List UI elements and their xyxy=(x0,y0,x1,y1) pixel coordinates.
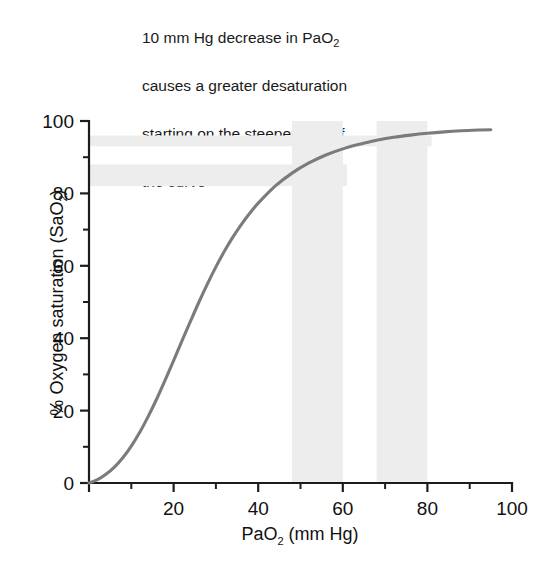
oxyhemoglobin-dissociation-figure: 10 mm Hg decrease in PaO2 causes a great… xyxy=(0,0,534,567)
y-tick-label: 40 xyxy=(53,328,74,349)
x-tick-label: 80 xyxy=(417,498,438,519)
x-highlight-band xyxy=(377,121,428,483)
x-tick-label: 20 xyxy=(163,498,184,519)
y-tick-label: 100 xyxy=(42,111,74,132)
x-tick-label: 60 xyxy=(332,498,353,519)
y-tick-label: 60 xyxy=(53,256,74,277)
y-tick-label: 80 xyxy=(53,183,74,204)
y-tick-label: 20 xyxy=(53,401,74,422)
x-tick-label: 100 xyxy=(496,498,528,519)
plot-area: 02040608010020406080100 xyxy=(0,0,534,567)
y-tick-label: 0 xyxy=(63,473,74,494)
x-tick-label: 40 xyxy=(248,498,269,519)
y-highlight-band xyxy=(89,164,347,186)
